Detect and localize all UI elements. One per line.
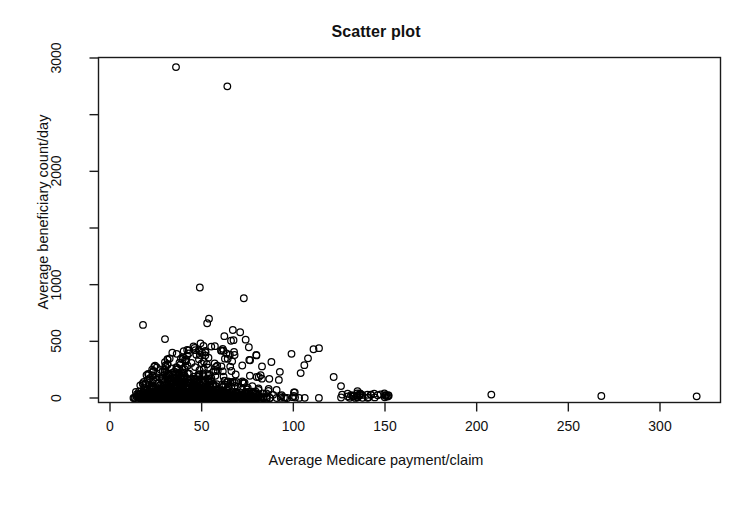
data-point: [224, 83, 231, 90]
x-tick-label: 0: [87, 418, 133, 434]
data-point: [169, 349, 176, 356]
data-point: [301, 362, 308, 369]
data-point: [230, 327, 237, 334]
data-point: [162, 336, 169, 343]
data-point: [338, 383, 345, 390]
data-point: [173, 64, 180, 71]
data-point: [237, 329, 244, 336]
x-tick-label: 50: [179, 418, 225, 434]
data-point: [140, 322, 147, 329]
data-point: [239, 362, 246, 369]
y-axis-label-wrap: Average beneficiary count/day: [33, 82, 53, 342]
data-point: [259, 363, 266, 370]
x-tick-label: 300: [637, 418, 683, 434]
data-point: [488, 391, 495, 398]
x-tick-label: 250: [545, 418, 591, 434]
data-point: [247, 372, 254, 379]
data-point: [268, 359, 275, 366]
x-tick-label: 150: [362, 418, 408, 434]
x-axis-ticks: [110, 403, 660, 412]
data-point: [228, 368, 235, 375]
data-point: [277, 369, 284, 376]
data-point: [173, 351, 180, 358]
scatter-plot-figure: Scatter plot 050100150200250300 05001000…: [0, 0, 752, 510]
y-tick-label-wrap: 3000: [48, 30, 64, 86]
data-point: [297, 370, 304, 377]
data-point: [316, 395, 323, 402]
data-point: [221, 333, 228, 340]
x-tick-label: 200: [454, 418, 500, 434]
data-point: [232, 371, 239, 378]
y-axis-label: Average beneficiary count/day: [33, 82, 53, 342]
data-point: [693, 393, 700, 400]
data-point: [242, 336, 249, 343]
data-point: [598, 393, 605, 400]
data-point: [197, 284, 204, 291]
data-point: [288, 351, 295, 358]
x-tick-label: 100: [270, 418, 316, 434]
x-axis-label: Average Medicare payment/claim: [0, 452, 752, 469]
data-point: [266, 376, 273, 383]
data-point: [305, 355, 312, 362]
y-tick-label: 3000: [48, 30, 64, 86]
y-axis-ticks: [90, 58, 99, 398]
data-point: [330, 374, 337, 381]
data-point: [246, 344, 253, 351]
y-tick-label: 0: [48, 370, 64, 426]
data-points-layer: [130, 64, 700, 402]
data-point: [276, 377, 283, 384]
data-point: [241, 295, 248, 302]
y-tick-label-wrap: 0: [48, 370, 64, 426]
